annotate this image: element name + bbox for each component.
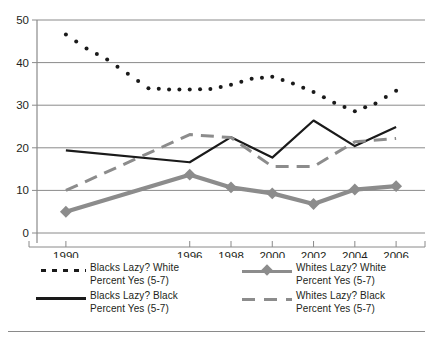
legend-item-blacks-lazy-black: Blacks Lazy? Black Percent Yes (5-7) [34,290,234,315]
data-point [64,32,68,36]
legend-label-blacks-lazy-white: Blacks Lazy? White Percent Yes (5-7) [90,262,179,287]
series-dot-dotted [64,32,398,113]
dashed-line-icon [240,292,296,305]
data-point [74,40,78,44]
legend-label-whites-lazy-black: Whites Lazy? Black Percent Yes (5-7) [296,290,385,315]
legend-grid: Blacks Lazy? White Percent Yes (5-7) Whi… [0,262,433,315]
data-point [219,85,223,89]
data-point [322,95,326,99]
data-point [188,87,192,91]
data-point [312,90,316,94]
data-point [177,87,181,91]
footer-divider [8,331,425,332]
data-point [105,58,109,62]
diamond-marker-line-icon [240,264,296,277]
data-point [270,75,274,79]
x-tick-label: 2004 [342,250,368,258]
data-point [115,65,119,69]
data-point-diamond [60,206,72,218]
data-point [384,95,388,99]
data-point [301,86,305,90]
data-point [167,87,171,91]
data-point [85,47,89,51]
data-point [239,80,243,84]
x-tick-label: 2002 [301,250,327,258]
y-tick-label: 50 [16,14,29,26]
x-tick-label: 2006 [383,250,409,258]
data-point [136,79,140,83]
y-tick-label: 0 [23,227,29,239]
data-point-diamond [349,184,361,196]
legend-item-whites-lazy-white: Whites Lazy? White Percent Yes (5-7) [240,262,433,287]
data-point [373,101,377,105]
data-point [332,101,336,105]
data-point-diamond [184,169,196,181]
solid-line-icon [34,292,90,305]
data-point [157,87,161,91]
plot-area: 010203040501990199619982000200220042006 [0,0,433,258]
x-tick-label: 1998 [218,250,244,258]
data-point [126,72,130,76]
y-tick-label: 30 [16,99,29,111]
x-tick-label: 2000 [259,250,285,258]
data-point [208,87,212,91]
data-point-diamond [266,187,278,199]
y-tick-label: 40 [16,57,29,69]
data-point [250,77,254,81]
x-tick-label: 1996 [177,250,203,258]
legend-label-blacks-lazy-black: Blacks Lazy? Black Percent Yes (5-7) [90,290,178,315]
data-point [363,105,367,109]
legend-label-whites-lazy-white: Whites Lazy? White Percent Yes (5-7) [296,262,386,287]
data-point [198,87,202,91]
y-tick-label: 20 [16,142,29,154]
chart-legend: Blacks Lazy? White Percent Yes (5-7) Whi… [0,258,433,330]
data-point [353,109,357,113]
data-point [281,78,285,82]
data-point [260,76,264,80]
x-tick-label: 1990 [53,250,79,258]
legend-item-blacks-lazy-white: Blacks Lazy? White Percent Yes (5-7) [34,262,234,287]
data-point [291,81,295,85]
dotted-line-icon [34,264,90,277]
data-point [146,86,150,90]
chart-figure: 010203040501990199619982000200220042006 … [0,0,433,341]
data-point [343,105,347,109]
data-point [394,89,398,93]
series-line-solid [66,121,396,163]
line-chart-svg: 010203040501990199619982000200220042006 [0,0,433,258]
data-point [95,52,99,56]
legend-item-whites-lazy-black: Whites Lazy? Black Percent Yes (5-7) [240,290,433,315]
data-point-diamond [308,198,320,210]
y-tick-label: 10 [16,184,29,196]
data-point-diamond [225,181,237,193]
data-point [229,83,233,87]
